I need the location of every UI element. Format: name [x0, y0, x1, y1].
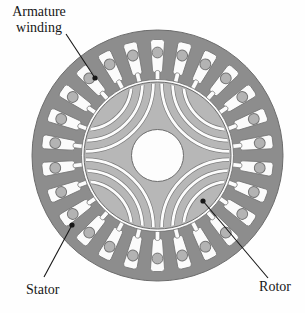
shaft-bore: [132, 130, 184, 182]
motor-figure: Armature winding Stator Rotor: [0, 0, 305, 313]
motor-diagram-svg: [0, 0, 305, 313]
rotor-leader-dot: [200, 198, 205, 203]
armature-winding-label: Armature winding: [0, 4, 78, 36]
stator-leader-dot: [69, 222, 74, 227]
armature-winding-conductor: [152, 253, 163, 264]
stator-label: Stator: [26, 282, 59, 298]
rotor-label: Rotor: [252, 279, 298, 295]
armature-winding-conductor: [152, 47, 163, 58]
armature-winding-leader-dot: [92, 75, 97, 80]
